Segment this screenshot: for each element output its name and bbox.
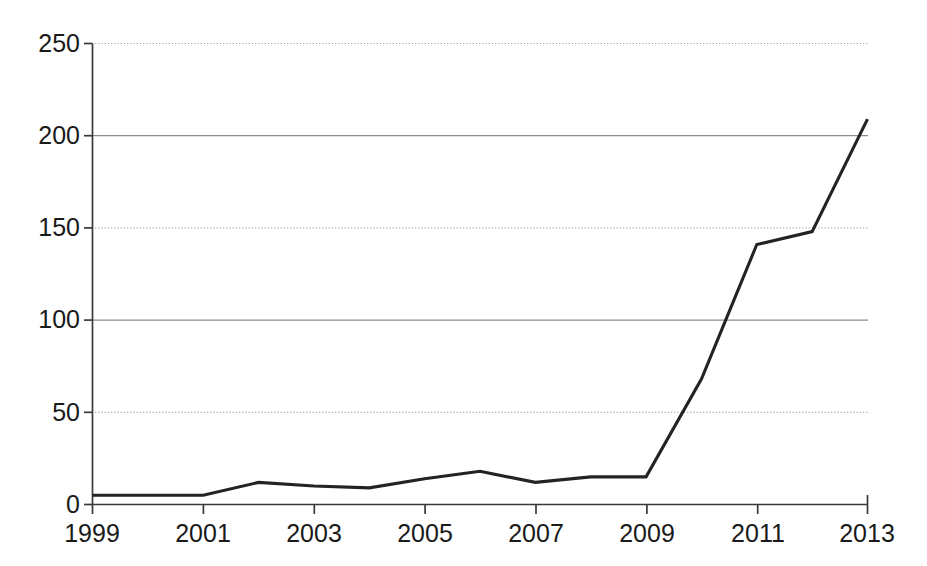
y-tick-label-100: 100 [38, 307, 80, 332]
gridlines [92, 44, 868, 413]
data-line-series [93, 119, 868, 495]
x-tick-label-2009: 2009 [607, 521, 687, 546]
y-tick-label-0-wrap: 0 [8, 492, 80, 518]
chart-canvas [0, 0, 927, 566]
y-tick-label-0: 0 [66, 492, 80, 517]
y-tick-label-100-wrap: 100 [8, 307, 80, 333]
x-tick-label-2011: 2011 [718, 521, 798, 546]
y-tick-label-150: 150 [38, 215, 80, 240]
x-tick-label-2003: 2003 [274, 521, 354, 546]
x-tick-label-2007: 2007 [496, 521, 576, 546]
y-tick-label-200: 200 [38, 123, 80, 148]
y-tick-marks [84, 44, 92, 505]
x-tick-label-2001: 2001 [163, 521, 243, 546]
x-tick-marks [93, 505, 868, 515]
x-tick-label-2013: 2013 [827, 521, 907, 546]
axis-lines [92, 44, 868, 505]
x-tick-label-2005: 2005 [385, 521, 465, 546]
y-tick-label-50: 50 [52, 400, 80, 425]
y-tick-label-50-wrap: 50 [8, 400, 80, 426]
y-tick-label-250: 250 [38, 31, 80, 56]
y-tick-label-200-wrap: 200 [8, 123, 80, 149]
line-chart: 250 200 150 100 50 0 1999 2001 2003 2005… [0, 0, 927, 566]
y-tick-label-250-wrap: 250 [8, 31, 80, 57]
y-tick-label-150-wrap: 150 [8, 215, 80, 241]
x-tick-label-1999: 1999 [52, 521, 132, 546]
